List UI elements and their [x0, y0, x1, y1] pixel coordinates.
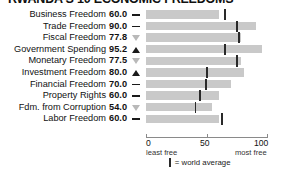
- score-bar: [146, 22, 256, 30]
- table-row: Investment Freedom80.0: [0, 67, 282, 79]
- triangle-down-icon: [132, 105, 140, 111]
- world-average-marker: [224, 44, 226, 55]
- freedom-rows: Business Freedom60.0Trade Freedom90.0Fis…: [0, 9, 282, 125]
- triangle-down-icon: [132, 35, 140, 41]
- freedom-label: Fiscal Freedom: [0, 32, 106, 44]
- bar-track: [146, 102, 268, 114]
- freedom-label: Investment Freedom: [0, 67, 106, 79]
- triangle-up-icon: [132, 47, 140, 53]
- bar-track: [146, 44, 268, 56]
- legend-label: = world average: [175, 157, 231, 168]
- dash-icon: [132, 26, 140, 28]
- freedom-score-value: 77.5: [103, 55, 127, 67]
- score-bar: [146, 45, 262, 53]
- freedom-label: Monetary Freedom: [0, 55, 106, 67]
- dash-icon: [132, 84, 140, 86]
- trend-down-icon: [130, 102, 141, 114]
- dash-icon: [132, 95, 140, 97]
- freedom-label: Fdm. from Corruption: [0, 102, 106, 114]
- trend-up-icon: [130, 44, 141, 56]
- table-row: Monetary Freedom77.5: [0, 55, 282, 67]
- trend-flat-icon: [130, 90, 141, 102]
- score-bar: [146, 33, 241, 41]
- world-average-marker: [205, 79, 207, 90]
- freedom-score-value: 54.0: [103, 102, 127, 114]
- table-row: Trade Freedom90.0: [0, 21, 282, 33]
- freedom-label: Trade Freedom: [0, 21, 106, 33]
- bar-track: [146, 79, 268, 91]
- triangle-down-icon: [132, 58, 140, 64]
- bar-track: [146, 67, 268, 79]
- world-average-marker: [195, 102, 197, 113]
- chart-title-clip: RWANDA'S 10 ECONOMIC FREEDOMS: [0, 0, 282, 9]
- table-row: Business Freedom60.0: [0, 9, 282, 21]
- freedom-score-value: 80.0: [103, 67, 127, 79]
- freedom-score-value: 60.0: [103, 90, 127, 102]
- bar-track: [146, 9, 268, 21]
- world-average-tick-icon: [169, 158, 171, 167]
- table-row: Fiscal Freedom77.8: [0, 32, 282, 44]
- world-average-marker: [238, 32, 240, 43]
- bar-track: [146, 55, 268, 67]
- dash-icon: [132, 118, 140, 120]
- trend-flat-icon: [130, 79, 141, 91]
- legend: = world average: [169, 157, 231, 168]
- world-average-marker: [224, 9, 226, 20]
- freedom-label: Government Spending: [0, 44, 106, 56]
- trend-down-icon: [130, 32, 141, 44]
- freedom-score-value: 60.0: [103, 9, 127, 21]
- world-average-marker: [199, 90, 201, 101]
- bar-track: [146, 90, 268, 102]
- score-bar: [146, 103, 212, 111]
- trend-up-icon: [130, 67, 141, 79]
- score-bar: [146, 91, 219, 99]
- world-average-marker: [206, 67, 208, 78]
- trend-flat-icon: [130, 21, 141, 33]
- freedom-label: Business Freedom: [0, 9, 106, 21]
- score-bar: [146, 115, 219, 123]
- triangle-up-icon: [132, 70, 140, 76]
- axis-most-free-label: most free: [235, 148, 267, 158]
- page-title: RWANDA'S 10 ECONOMIC FREEDOMS: [8, 0, 233, 6]
- freedom-score-value: 95.2: [103, 44, 127, 56]
- freedom-score-value: 77.8: [103, 32, 127, 44]
- trend-flat-icon: [130, 113, 141, 125]
- freedom-label: Property Rights: [0, 90, 106, 102]
- bar-track: [146, 32, 268, 44]
- trend-down-icon: [130, 55, 141, 67]
- dash-icon: [132, 14, 140, 16]
- table-row: Labor Freedom60.0: [0, 113, 282, 125]
- table-row: Fdm. from Corruption54.0: [0, 102, 282, 114]
- table-row: Property Rights60.0: [0, 90, 282, 102]
- score-bar: [146, 68, 244, 76]
- score-bar: [146, 80, 231, 88]
- freedom-score-value: 70.0: [103, 79, 127, 91]
- bar-track: [146, 113, 268, 125]
- trend-flat-icon: [130, 9, 141, 21]
- table-row: Government Spending95.2: [0, 44, 282, 56]
- freedom-label: Labor Freedom: [0, 113, 106, 125]
- world-average-marker: [236, 55, 238, 66]
- world-average-marker: [221, 113, 223, 124]
- freedom-label: Financial Freedom: [0, 79, 106, 91]
- bar-track: [146, 21, 268, 33]
- score-bar: [146, 10, 219, 18]
- economic-freedoms-chart: RWANDA'S 10 ECONOMIC FREEDOMS Business F…: [0, 0, 282, 169]
- world-average-marker: [236, 21, 238, 32]
- score-bar: [146, 57, 241, 65]
- freedom-score-value: 60.0: [103, 113, 127, 125]
- freedom-score-value: 90.0: [103, 21, 127, 33]
- table-row: Financial Freedom70.0: [0, 79, 282, 91]
